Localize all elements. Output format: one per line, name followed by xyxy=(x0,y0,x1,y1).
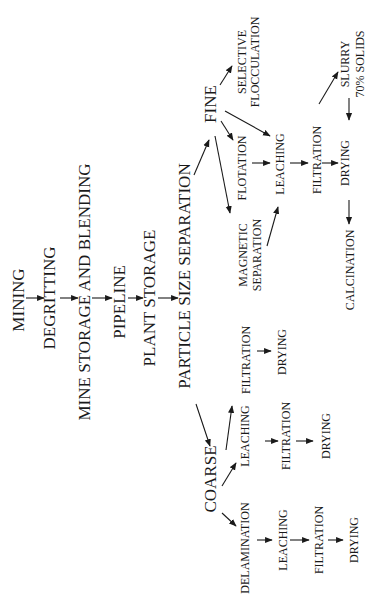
node-filtration-coarse: FILTRATION xyxy=(279,402,293,471)
node-leaching-delam: LEACHING xyxy=(276,509,290,571)
node-pipeline: PIPELINE xyxy=(110,265,129,339)
arrow-coarse-leaching xyxy=(222,463,236,486)
arrow-fine-magnetic xyxy=(215,136,230,213)
arrow-fine-flotation xyxy=(221,121,233,140)
node-fine: FINE xyxy=(201,85,220,123)
node-filtration-fine: FILTRATION xyxy=(310,126,324,195)
arrow-fine-selective xyxy=(220,66,232,85)
arrow-separation-coarse xyxy=(196,404,210,446)
node-particle-size-separation: PARTICLE SIZE SEPARATION xyxy=(175,163,194,388)
node-leaching-coarse: LEACHING xyxy=(238,405,252,467)
node-leaching-fine: LEACHING xyxy=(273,133,287,195)
arrow-coarse-filtration-mid xyxy=(226,406,232,450)
process-flow-diagram: MINING DEGRITTING MINE STORAGE AND BLEND… xyxy=(0,0,387,606)
node-magnetic-separation-2: SEPARATION xyxy=(250,219,264,292)
node-slurry-2: 70% SOLIDS xyxy=(353,30,367,97)
node-coarse: COARSE xyxy=(201,445,220,512)
node-drying-fine: DRYING xyxy=(338,140,352,186)
node-selective-flocculation-2: FLOCCULATION xyxy=(248,16,262,107)
node-filtration-mid: FILTRATION xyxy=(239,326,253,395)
arrow-filtration-slurry xyxy=(319,72,338,104)
node-delamination: DELAMINATION xyxy=(238,502,252,594)
node-filtration-delam: FILTRATION xyxy=(312,506,326,575)
node-drying-mid: DRYING xyxy=(275,329,289,375)
node-flotation: FLOTATION xyxy=(235,135,249,200)
node-magnetic-separation-1: MAGNETIC xyxy=(236,223,250,286)
node-drying-delam: DRYING xyxy=(347,517,361,563)
node-slurry-1: SLURRY xyxy=(338,40,352,87)
arrow-coarse-delamination xyxy=(222,513,236,526)
node-mining: MINING xyxy=(9,268,28,331)
arrow-separation-fine xyxy=(194,140,209,175)
node-calcination: CALCINATION xyxy=(343,229,357,310)
arrow-fine-leaching xyxy=(225,111,270,136)
node-drying-coarse: DRYING xyxy=(319,413,333,459)
arrow-magnetic-leaching xyxy=(267,207,278,246)
node-mine-storage: MINE STORAGE AND BLENDING xyxy=(75,163,94,420)
node-selective-flocculation-1: SELECTIVE xyxy=(235,30,249,94)
